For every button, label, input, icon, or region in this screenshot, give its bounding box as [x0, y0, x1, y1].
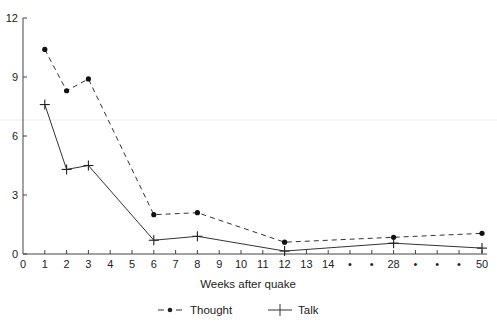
dot-marker-icon — [479, 231, 484, 236]
x-tick-label: 13 — [300, 258, 312, 270]
legend-item-talk: Talk — [268, 304, 319, 316]
thought-line — [45, 49, 482, 242]
x-tick-label: 28 — [387, 258, 399, 270]
x-tick-label: • — [413, 258, 417, 270]
dot-marker-icon — [86, 76, 91, 81]
x-tick-label: 14 — [322, 258, 334, 270]
x-tick-label: 0 — [20, 258, 26, 270]
x-tick-label: 11 — [257, 258, 268, 270]
y-tick-label: 3 — [12, 189, 18, 201]
legend-label-thought: Thought — [190, 304, 233, 316]
x-tick-label: 10 — [235, 258, 247, 270]
series-talk — [40, 100, 487, 257]
x-tick-label: • — [370, 258, 374, 270]
y-tick-label: 12 — [6, 12, 18, 24]
dot-marker-icon — [64, 88, 69, 93]
dot-marker-icon — [168, 308, 173, 313]
dot-marker-icon — [195, 210, 200, 215]
line-chart: 036912 01234567891011121314••28•••50 Wee… — [0, 0, 497, 326]
x-tick-label: 1 — [42, 258, 48, 270]
y-tick-label: 0 — [12, 248, 18, 260]
x-tick-label: 7 — [173, 258, 179, 270]
y-axis: 036912 — [6, 12, 27, 260]
talk-line — [45, 105, 482, 252]
x-tick-label: 12 — [278, 258, 290, 270]
x-tick-label: 3 — [85, 258, 91, 270]
x-tick-label: 9 — [216, 258, 222, 270]
y-tick-label: 9 — [12, 71, 18, 83]
x-axis-title: Weeks after quake — [200, 278, 296, 290]
legend: Thought Talk — [158, 304, 319, 316]
y-tick-label: 6 — [12, 130, 18, 142]
legend-label-talk: Talk — [298, 304, 319, 316]
x-tick-label: 4 — [107, 258, 113, 270]
x-tick-label: 50 — [476, 258, 488, 270]
series-thought — [42, 47, 484, 245]
x-tick-label: • — [435, 258, 439, 270]
x-tick-label: 6 — [151, 258, 157, 270]
legend-item-thought: Thought — [158, 304, 233, 316]
x-tick-label: • — [348, 258, 352, 270]
dot-marker-icon — [282, 240, 287, 245]
dot-marker-icon — [42, 47, 47, 52]
dot-marker-icon — [151, 212, 156, 217]
x-tick-label: 2 — [64, 258, 70, 270]
x-tick-label: • — [457, 258, 461, 270]
x-axis: 01234567891011121314••28•••50 — [20, 250, 488, 270]
x-tick-label: 5 — [129, 258, 135, 270]
x-tick-label: 8 — [194, 258, 200, 270]
